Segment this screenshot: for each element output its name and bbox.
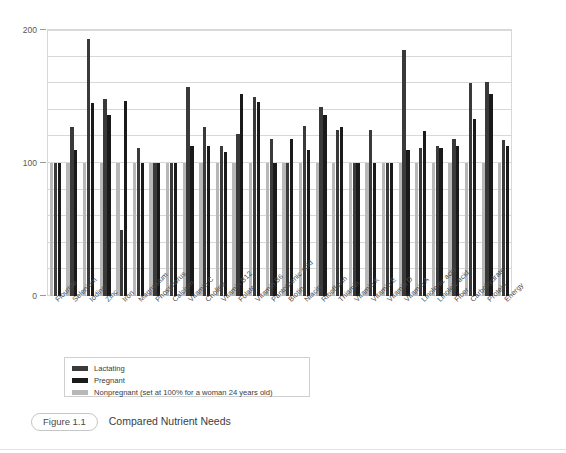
bar-lactating [203, 127, 206, 296]
y-axis-tick [40, 295, 46, 296]
bar-group [296, 30, 313, 296]
bar-lactating [469, 83, 472, 296]
bar-nonpregnant [83, 163, 86, 296]
bar-group [396, 30, 413, 296]
bar-lactating [336, 130, 339, 296]
bar-lactating [436, 146, 439, 296]
bar-pregnant [58, 163, 61, 296]
bar-nonpregnant [116, 163, 119, 296]
bar-group [313, 30, 330, 296]
bar-nonpregnant [50, 163, 53, 296]
y-axis-tick [40, 29, 46, 30]
bar-pregnant [107, 115, 110, 296]
bar-group [446, 30, 463, 296]
bar-pregnant [423, 131, 426, 296]
bar-pregnant [307, 150, 310, 296]
bar-pregnant [124, 101, 127, 297]
chart-legend: LactatingPregnantNonpregnant (set at 100… [64, 357, 310, 397]
bar-nonpregnant [415, 163, 418, 296]
figure-number-badge: Figure 1.1 [31, 413, 98, 431]
bar-pregnant [489, 94, 492, 296]
bar-pregnant [190, 146, 193, 296]
bar-group [97, 30, 114, 296]
y-axis-tick-label: 100 [23, 159, 37, 168]
bar-group [280, 30, 297, 296]
bar-pregnant [356, 163, 359, 296]
bar-pregnant [473, 119, 476, 296]
bar-group [113, 30, 130, 296]
legend-label: Pregnant [94, 377, 125, 385]
legend-label: Lactating [94, 365, 125, 373]
bar-lactating [419, 148, 422, 296]
bar-lactating [70, 127, 73, 296]
bar-lactating [485, 82, 488, 296]
bar-group [130, 30, 147, 296]
bar-group [163, 30, 180, 296]
bar-pregnant [506, 146, 509, 296]
bar-nonpregnant [316, 163, 319, 296]
bar-lactating [54, 163, 57, 296]
bar-group [412, 30, 429, 296]
y-axis-tick-label: 200 [23, 26, 37, 35]
bar-group [196, 30, 213, 296]
bar-nonpregnant [399, 163, 402, 296]
legend-item: Nonpregnant (set at 100% for a woman 24 … [72, 387, 302, 398]
bar-nonpregnant [432, 163, 435, 296]
bar-group [230, 30, 247, 296]
bar-lactating [220, 146, 223, 296]
bar-lactating [353, 163, 356, 296]
bar-group [462, 30, 479, 296]
bar-nonpregnant [232, 163, 235, 296]
bar-pregnant [323, 115, 326, 296]
bar-nonpregnant [216, 163, 219, 296]
bar-group [246, 30, 263, 296]
bar-group [346, 30, 363, 296]
bar-lactating [103, 99, 106, 296]
bar-nonpregnant [266, 163, 269, 296]
x-axis-labels: FlourideSeleniumIodineZincIronMagnesiumP… [47, 298, 512, 360]
bar-group [479, 30, 496, 296]
legend-item: Pregnant [72, 375, 302, 386]
bar-lactating [236, 134, 239, 296]
bar-lactating [402, 50, 405, 296]
bar-pregnant [141, 163, 144, 296]
legend-swatch-lactating [72, 366, 88, 371]
legend-label: Nonpregnant (set at 100% for a woman 24 … [94, 389, 273, 397]
bar-lactating [319, 107, 322, 296]
bar-lactating [137, 148, 140, 296]
bar-nonpregnant [332, 163, 335, 296]
bar-nonpregnant [66, 163, 69, 296]
bar-nonpregnant [365, 163, 368, 296]
bar-group [329, 30, 346, 296]
bar-lactating [270, 139, 273, 296]
bar-lactating [369, 130, 372, 296]
bar-lactating [186, 87, 189, 296]
figure-caption-text: Compared Nutrient Needs [109, 415, 231, 428]
bar-lactating [120, 230, 123, 297]
bar-pregnant [224, 152, 227, 296]
bar-group [147, 30, 164, 296]
bar-pregnant [91, 103, 94, 296]
bar-pregnant [257, 102, 260, 296]
bar-nonpregnant [100, 163, 103, 296]
bar-group [429, 30, 446, 296]
y-axis-tick [40, 162, 46, 163]
bar-group [263, 30, 280, 296]
legend-swatch-pregnant [72, 378, 88, 383]
bar-nonpregnant [482, 163, 485, 296]
bar-group [363, 30, 380, 296]
y-axis-tick-label: 0 [32, 292, 37, 301]
bars-layer [47, 30, 512, 296]
bar-pregnant [240, 94, 243, 296]
bar-group [379, 30, 396, 296]
bar-group [64, 30, 81, 296]
bar-nonpregnant [149, 163, 152, 296]
bar-nonpregnant [199, 163, 202, 296]
bar-pregnant [340, 127, 343, 296]
bar-group [213, 30, 230, 296]
bar-group [47, 30, 64, 296]
bar-nonpregnant [133, 163, 136, 296]
bar-group [80, 30, 97, 296]
figure-container: 0100200 FlourideSeleniumIodineZincIronMa… [0, 0, 566, 453]
bar-group [495, 30, 512, 296]
